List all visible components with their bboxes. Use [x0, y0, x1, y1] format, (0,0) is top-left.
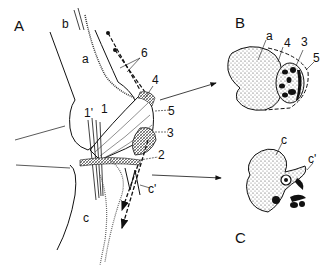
- section-b-bone-a: [228, 47, 283, 111]
- panel-c-label: C: [235, 229, 246, 246]
- label-b-5: 5: [313, 51, 320, 65]
- label-4: 4: [152, 73, 159, 87]
- label-c-prime: c': [148, 182, 156, 196]
- panel-b-label: B: [235, 14, 245, 31]
- label-b-a: a: [266, 29, 273, 43]
- structure-c-prime: [125, 168, 140, 195]
- label-b: b: [62, 17, 69, 31]
- label-c-c-prime: c': [308, 152, 316, 166]
- label-1: 1: [101, 102, 108, 116]
- label-b-4: 4: [284, 36, 291, 50]
- section-arrow-b: [160, 83, 216, 100]
- bone-c-outline: [57, 165, 76, 250]
- structure-2: [80, 158, 140, 167]
- anatomical-diagram: A b a 6 4 5 3 2 1' 1 c' c B a 4 3: [0, 0, 333, 273]
- tendon-6a: [108, 33, 140, 90]
- panel-c: c c' C: [235, 133, 316, 246]
- label-2: 2: [158, 148, 165, 162]
- label-5: 5: [168, 104, 175, 118]
- label-c: c: [83, 211, 89, 225]
- label-b-3: 3: [301, 35, 308, 49]
- label-3: 3: [167, 126, 174, 140]
- panel-a-label: A: [14, 17, 24, 34]
- panel-a: A b a 6 4 5 3 2 1' 1 c' c: [14, 8, 221, 265]
- label-6: 6: [141, 46, 148, 60]
- label-a: a: [82, 52, 89, 66]
- label-c-c: c: [281, 133, 287, 147]
- label-1-prime: 1': [84, 106, 93, 120]
- panel-b: B a 4 3 5: [228, 14, 320, 110]
- section-arrow-c: [152, 175, 221, 178]
- bone-a-cortex: [85, 15, 135, 98]
